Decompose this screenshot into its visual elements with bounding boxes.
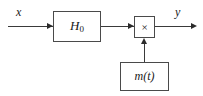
multiply-icon: × (141, 21, 147, 33)
output-signal-label: y (175, 6, 180, 18)
wire-modulator-to-multiplier (144, 44, 145, 62)
block-modulator-mt-label: m(t) (135, 69, 155, 84)
block-multiplier[interactable]: × (134, 16, 155, 38)
arrowhead-modulator-icon (141, 38, 147, 44)
block-filter-h0[interactable]: H0 (53, 11, 101, 42)
arrowhead-output-icon (191, 23, 197, 29)
block-filter-h0-label: H0 (70, 18, 84, 34)
block-modulator-mt[interactable]: m(t) (120, 62, 169, 91)
wire-multiplier-to-output (155, 26, 195, 27)
input-signal-label: x (16, 6, 21, 18)
block-filter-h0-subscript: 0 (79, 25, 84, 35)
block-diagram-canvas: x H0 × y m(t) (0, 0, 203, 96)
